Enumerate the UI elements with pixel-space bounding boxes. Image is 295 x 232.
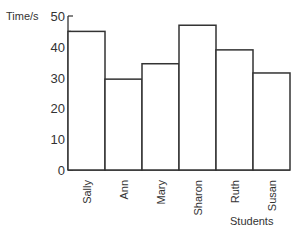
bar-susan: [253, 73, 290, 170]
x-axis-labels: SallyAnnMarySharonRuthSusan: [81, 180, 278, 216]
y-tick-label: 40: [51, 40, 65, 55]
x-tick-label: Sally: [81, 180, 93, 204]
y-axis-title: Time/s: [6, 10, 39, 22]
y-tick-label: 50: [51, 9, 65, 24]
bar-mary: [142, 64, 179, 170]
y-tick-label: 30: [51, 71, 65, 86]
x-axis-title: Students: [230, 215, 274, 227]
x-tick-label: Ruth: [229, 180, 241, 203]
bar-chart: 01020304050 SallyAnnMarySharonRuthSusan …: [0, 0, 295, 232]
y-tick-label: 10: [51, 132, 65, 147]
bar-ann: [105, 79, 142, 170]
bar-sally: [68, 31, 105, 170]
y-tick-label: 0: [58, 163, 65, 178]
y-tick-label: 20: [51, 101, 65, 116]
bar-sharon: [179, 25, 216, 170]
bar-ruth: [216, 50, 253, 170]
x-tick-label: Mary: [155, 180, 167, 205]
bars: [68, 25, 290, 170]
x-tick-label: Sharon: [192, 180, 204, 215]
x-tick-label: Susan: [266, 180, 278, 211]
x-tick-label: Ann: [118, 180, 130, 200]
